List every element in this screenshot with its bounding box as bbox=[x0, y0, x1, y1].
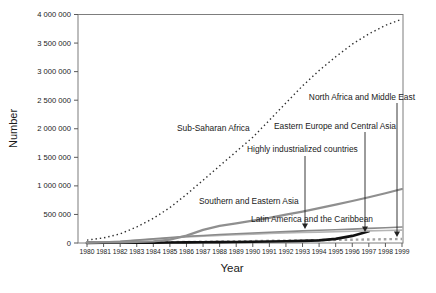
x-axis-title: Year bbox=[182, 262, 282, 277]
x-tick-label: 1981 bbox=[96, 248, 111, 255]
chart-figure: 0500 0001 000 0001 500 0002 000 0002 500… bbox=[0, 0, 436, 293]
y-tick-label: 1 500 000 bbox=[37, 153, 71, 162]
y-tick-label: 2 000 000 bbox=[37, 124, 71, 133]
annotation-arrowhead-icon bbox=[394, 232, 400, 238]
annotation-arrowhead-icon bbox=[302, 224, 308, 230]
series-label-sub-saharan-africa: Sub-Saharan Africa bbox=[177, 123, 250, 133]
y-tick-label: 1 000 000 bbox=[37, 181, 71, 190]
x-tick-label: 1985 bbox=[162, 248, 177, 255]
y-axis-title: Number bbox=[7, 79, 22, 179]
y-tick-label: 3 500 000 bbox=[37, 39, 71, 48]
x-tick-label: 1990 bbox=[245, 248, 260, 255]
y-tick-label: 3 000 000 bbox=[37, 67, 71, 76]
y-tick-label: 2 500 000 bbox=[37, 96, 71, 105]
y-tick-label: 4 000 000 bbox=[37, 10, 71, 19]
y-tick-label: 500 000 bbox=[44, 210, 71, 219]
chart-svg: 0500 0001 000 0001 500 0002 000 0002 500… bbox=[0, 0, 436, 293]
x-tick-label: 1988 bbox=[212, 248, 227, 255]
x-tick-label: 1997 bbox=[361, 248, 376, 255]
series-label-highly-industrialized-countries: Highly industrialized countries bbox=[247, 144, 358, 154]
x-tick-label: 1984 bbox=[146, 248, 161, 255]
series-label-eastern-europe-and-central-asia: Eastern Europe and Central Asia bbox=[274, 121, 396, 131]
series-label-latin-america-and-the-caribbean: Latin America and the Caribbean bbox=[251, 214, 373, 224]
series-label-north-africa-and-middle-east: North Africa and Middle East bbox=[309, 92, 416, 102]
x-tick-label: 1995 bbox=[328, 248, 343, 255]
x-tick-label: 1992 bbox=[279, 248, 294, 255]
series-label-southern-and-eastern-asia: Southern and Eastern Asia bbox=[199, 196, 299, 206]
x-tick-label: 1993 bbox=[295, 248, 310, 255]
x-tick-label: 1991 bbox=[262, 248, 277, 255]
x-tick-label: 1980 bbox=[80, 248, 95, 255]
y-tick-label: 0 bbox=[67, 239, 71, 248]
x-tick-label: 1986 bbox=[179, 248, 194, 255]
x-tick-label: 1996 bbox=[345, 248, 360, 255]
x-tick-label: 1998 bbox=[378, 248, 393, 255]
x-tick-label: 1989 bbox=[229, 248, 244, 255]
x-tick-label: 1983 bbox=[129, 248, 144, 255]
x-tick-label: 1994 bbox=[312, 248, 327, 255]
x-tick-label: 1999 bbox=[395, 248, 410, 255]
x-tick-label: 1987 bbox=[196, 248, 211, 255]
x-tick-label: 1982 bbox=[113, 248, 128, 255]
